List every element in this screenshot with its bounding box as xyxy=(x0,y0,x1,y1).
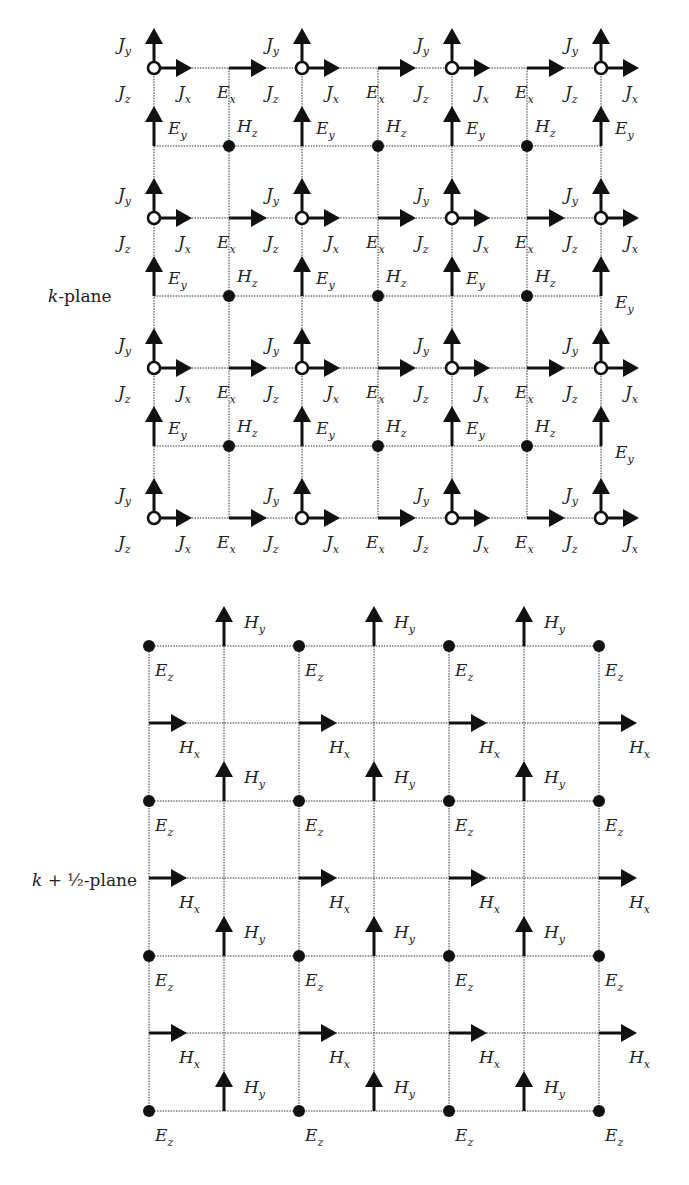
jy-arrow-head xyxy=(293,328,311,344)
ey-arrow xyxy=(293,406,311,446)
hx-arrow-head xyxy=(171,714,187,732)
ey-arrow xyxy=(293,256,311,296)
jx-arrow-head xyxy=(324,359,340,377)
jy-arrow-head xyxy=(592,28,610,44)
ey-label: Ey xyxy=(315,118,335,142)
jy-arrow-head xyxy=(145,328,163,344)
hz-node-dot xyxy=(372,440,384,452)
hz-label: Hz xyxy=(534,416,556,440)
hy-arrow-head xyxy=(365,916,383,932)
hz-label: Hz xyxy=(534,266,556,290)
hx-label: Hx xyxy=(178,737,201,761)
hx-arrow-head xyxy=(471,714,487,732)
hx-arrow-head xyxy=(621,869,637,887)
ey-arrow xyxy=(443,406,461,446)
ez-label: Ez xyxy=(154,815,173,839)
jy-label: Jy xyxy=(413,184,430,208)
jz-node-ring xyxy=(296,512,308,524)
ex-arrow-head xyxy=(251,509,267,527)
jz-node-ring xyxy=(296,212,308,224)
jz-label: Jz xyxy=(115,382,131,406)
hy-arrow xyxy=(515,916,533,956)
hz-node-dot xyxy=(521,140,533,152)
hx-label: Hx xyxy=(328,737,351,761)
jz-label: Jz xyxy=(413,382,429,406)
hy-label: Hy xyxy=(243,612,266,636)
ex-arrow xyxy=(378,209,416,227)
hy-arrow xyxy=(365,916,383,956)
jx-arrow-head xyxy=(324,509,340,527)
hx-arrow-head xyxy=(171,869,187,887)
ex-arrow-head xyxy=(251,59,267,77)
jz-label: Jz xyxy=(562,232,578,256)
hy-label: Hy xyxy=(393,922,416,946)
jx-label: Jx xyxy=(622,82,639,106)
hx-arrow-head xyxy=(621,1024,637,1042)
ez-node-dot xyxy=(293,950,305,962)
ey-arrow-head xyxy=(443,106,461,122)
ex-label: Ex xyxy=(514,82,534,106)
ez-node-dot xyxy=(293,1105,305,1117)
jx-arrow-head xyxy=(474,59,490,77)
jy-label: Jy xyxy=(562,184,579,208)
hz-label: Hz xyxy=(385,266,407,290)
jz-label: Jz xyxy=(263,232,279,256)
k-plane-label-k: k xyxy=(48,286,58,306)
ey-arrow-head xyxy=(592,256,610,272)
jx-arrow-head xyxy=(474,359,490,377)
ex-arrow-head xyxy=(549,509,565,527)
jy-label: Jy xyxy=(562,334,579,358)
hy-arrow-head xyxy=(515,1071,533,1087)
ey-arrow-head xyxy=(145,106,163,122)
jx-label: Jx xyxy=(473,232,490,256)
k-plane-label-rest: -plane xyxy=(58,286,111,306)
jz-label: Jz xyxy=(115,532,131,556)
hx-arrow-head xyxy=(471,869,487,887)
hx-label: Hx xyxy=(328,1047,351,1071)
ex-arrow-head xyxy=(549,59,565,77)
jx-arrow-head xyxy=(474,509,490,527)
ex-arrow xyxy=(378,59,416,77)
jy-label: Jy xyxy=(263,34,280,58)
ey-label: Ey xyxy=(614,118,634,142)
jy-label: Jy xyxy=(413,34,430,58)
hx-label: Hx xyxy=(328,892,351,916)
ez-node-dot xyxy=(443,640,455,652)
hx-arrow xyxy=(299,869,337,887)
jy-arrow-head xyxy=(293,178,311,194)
hx-label: Hx xyxy=(478,892,501,916)
jx-arrow-head xyxy=(176,209,192,227)
ey-arrow xyxy=(145,106,163,146)
ez-label: Ez xyxy=(454,660,473,684)
ey-arrow-head xyxy=(293,406,311,422)
jy-arrow-head xyxy=(443,478,461,494)
jy-arrow-head xyxy=(592,328,610,344)
ex-arrow-head xyxy=(251,359,267,377)
ey-label: Ey xyxy=(167,118,187,142)
hx-arrow-head xyxy=(471,1024,487,1042)
hx-arrow xyxy=(149,714,187,732)
ex-arrow xyxy=(527,359,565,377)
hy-arrow xyxy=(515,606,533,646)
hx-arrow-head xyxy=(621,714,637,732)
jy-arrow-head xyxy=(145,478,163,494)
jy-label: Jy xyxy=(115,334,132,358)
hy-label: Hy xyxy=(393,1077,416,1101)
jz-label: Jz xyxy=(562,82,578,106)
hx-arrow-head xyxy=(321,1024,337,1042)
ey-arrow xyxy=(443,256,461,296)
jx-arrow-head xyxy=(623,209,639,227)
ez-node-dot xyxy=(443,950,455,962)
hy-arrow-head xyxy=(515,761,533,777)
ex-arrow-head xyxy=(251,209,267,227)
jz-node-ring xyxy=(595,212,607,224)
hx-arrow xyxy=(449,1024,487,1042)
ez-label: Ez xyxy=(604,970,623,994)
ex-arrow xyxy=(527,509,565,527)
ex-arrow-head xyxy=(400,59,416,77)
jy-arrow-head xyxy=(592,178,610,194)
jz-label: Jz xyxy=(562,532,578,556)
jx-label: Jx xyxy=(473,532,490,556)
jy-label: Jy xyxy=(263,184,280,208)
jz-node-ring xyxy=(446,362,458,374)
